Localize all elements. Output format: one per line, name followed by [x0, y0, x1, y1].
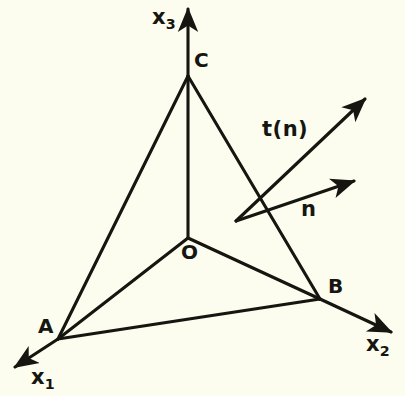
axis-label-x1-subscript: 1 [45, 376, 55, 392]
vertex-label-O: O [181, 242, 198, 262]
figure-canvas: x3 x1 x2 C O A B t(n) n [0, 0, 405, 396]
axis-label-x1: x1 [31, 367, 55, 391]
axis-x2 [320, 299, 391, 332]
edge-C-B [188, 76, 320, 299]
edge-A-B [58, 299, 320, 339]
vertex-label-B: B [328, 276, 343, 296]
axis-label-x2-subscript: 2 [380, 343, 390, 359]
axis-label-x1-text: x [31, 365, 45, 389]
edge-O-A [58, 238, 188, 339]
axis-label-x3-subscript: 3 [166, 16, 176, 32]
axis-x1 [15, 339, 58, 367]
vertex-label-C: C [194, 50, 209, 70]
axis-label-x3-text: x [152, 5, 166, 29]
axis-label-x2-text: x [366, 332, 380, 356]
traction-vector-label: t(n) [262, 119, 308, 140]
edge-A-C [58, 76, 188, 339]
axis-label-x2: x2 [366, 334, 390, 358]
normal-vector-label: n [301, 199, 316, 220]
vertex-label-A: A [38, 316, 53, 336]
axis-label-x3: x3 [152, 7, 176, 31]
